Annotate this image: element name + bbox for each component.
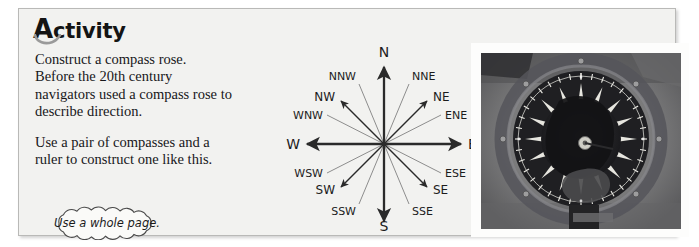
- cloud-callout: Use a whole page.: [45, 206, 169, 240]
- heading-rest: ctivity: [53, 19, 126, 43]
- activity-heading: Activity: [33, 14, 126, 44]
- activity-body-copy: Construct a compass rose. Before the 20t…: [35, 51, 235, 168]
- compass-label-ssw: SSW: [331, 205, 356, 218]
- compass-photo-frame: [471, 43, 689, 237]
- paragraph-3: Use a pair of compasses and a ruler to c…: [35, 134, 235, 169]
- compass-label-nnw: NNW: [329, 70, 356, 83]
- compass-label-sw: SW: [316, 183, 336, 197]
- heading-initial: A: [33, 14, 53, 44]
- activity-heading-text: Activity: [33, 19, 126, 43]
- compass-label-w: W: [286, 136, 300, 152]
- compass-label-ese: ESE: [445, 167, 466, 180]
- compass-label-nw: NW: [314, 90, 335, 104]
- compass-photograph: [481, 53, 681, 229]
- activity-panel-root: Activity Construct a compass rose. Befor…: [0, 0, 699, 247]
- compass-rose-diagram: N E S W NE SE SW NW NNE ENE ESE SSE SSW …: [255, 31, 480, 231]
- paragraph-2: Before the 20th century navigators used …: [35, 68, 235, 120]
- cloud-callout-text: Use a whole page.: [45, 206, 169, 240]
- compass-label-ene: ENE: [445, 109, 467, 122]
- compass-label-ne: NE: [433, 90, 450, 104]
- compass-label-nne: NNE: [412, 70, 435, 83]
- activity-panel: Activity Construct a compass rose. Befor…: [18, 8, 676, 236]
- compass-label-wsw: WSW: [294, 167, 323, 180]
- compass-label-sse: SSE: [412, 205, 433, 218]
- paragraph-1: Construct a compass rose.: [35, 51, 235, 68]
- compass-label-se: SE: [433, 183, 448, 197]
- compass-label-wnw: WNW: [293, 109, 323, 122]
- compass-label-s: S: [380, 218, 389, 231]
- compass-label-n: N: [379, 44, 389, 60]
